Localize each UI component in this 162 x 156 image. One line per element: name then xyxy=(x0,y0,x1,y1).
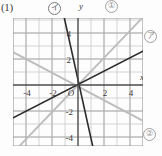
series-marker-a: ア xyxy=(144,30,157,43)
x-axis-label: x xyxy=(139,72,143,82)
series-marker-i-label: イ xyxy=(48,2,61,15)
coordinate-plot: -4 -2 2 4 4 2 -2 -4 O x y y xyxy=(13,18,143,146)
y-tick-2: 2 xyxy=(67,55,72,65)
series-marker-i: イ xyxy=(48,2,61,15)
x-tick-neg2: -2 xyxy=(49,88,57,98)
origin-label: O xyxy=(68,88,75,98)
y-tick-4: 4 xyxy=(67,29,72,39)
y-tick-neg4: -4 xyxy=(66,133,74,143)
y-axis-label-top: y xyxy=(79,1,83,11)
x-tick-neg4: -4 xyxy=(23,88,31,98)
y-tick-neg2: -2 xyxy=(66,107,74,117)
series-marker-1-label: ① xyxy=(105,0,118,13)
series-marker-1: ① xyxy=(105,0,118,13)
plot-svg: -4 -2 2 4 4 2 -2 -4 O x y xyxy=(13,18,143,146)
series-marker-2-label: ② xyxy=(143,128,156,141)
series-marker-a-label: ア xyxy=(144,30,157,43)
series-marker-2: ② xyxy=(143,128,156,141)
problem-number: (1) xyxy=(1,1,13,13)
x-tick-2: 2 xyxy=(103,88,108,98)
figure-root: (1) xyxy=(0,0,162,156)
x-tick-4: 4 xyxy=(129,88,134,98)
